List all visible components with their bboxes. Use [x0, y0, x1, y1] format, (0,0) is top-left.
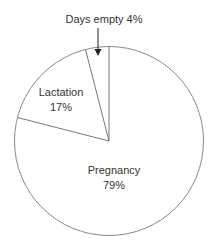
label-pregnancy-name: Pregnancy — [88, 164, 141, 176]
label-lactation-value: 17% — [50, 101, 72, 113]
label-pregnancy-value: 79% — [103, 179, 125, 191]
label-lactation-name: Lactation — [39, 86, 84, 98]
pie-chart: Days empty 4% Lactation 17% Pregnancy 79… — [0, 0, 213, 250]
label-days-empty: Days empty 4% — [65, 13, 142, 25]
